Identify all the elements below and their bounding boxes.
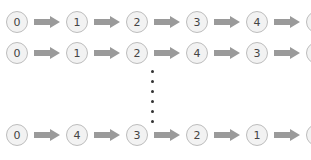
dot	[151, 80, 154, 83]
arrow-right-icon	[274, 129, 300, 141]
node-label: 2	[134, 16, 141, 29]
dot	[151, 70, 154, 73]
node-label: 0	[14, 16, 21, 29]
vertical-ellipsis	[151, 70, 155, 130]
node: 4	[246, 11, 268, 33]
node-label: 1	[74, 47, 81, 60]
node: 2	[126, 42, 148, 64]
node: 1	[66, 11, 88, 33]
node: 0	[306, 124, 311, 146]
node: 0	[306, 11, 311, 33]
arrow-right-icon	[94, 129, 120, 141]
node-label: 4	[194, 47, 201, 60]
dot	[151, 110, 154, 113]
arrow-right-icon	[154, 129, 180, 141]
node: 2	[126, 11, 148, 33]
node-label: 3	[194, 16, 201, 29]
arrow-right-icon	[34, 129, 60, 141]
node: 0	[306, 42, 311, 64]
arrow-right-icon	[34, 47, 60, 59]
node: 0	[6, 11, 28, 33]
sequence-row-3: 0 4 3 2 1 0	[6, 123, 311, 147]
node-label: 4	[74, 129, 81, 142]
node: 4	[66, 124, 88, 146]
node-label: 0	[14, 47, 21, 60]
sequence-row-1: 0 1 2 3 4 0	[6, 10, 311, 34]
arrow-right-icon	[34, 16, 60, 28]
node-label: 3	[134, 129, 141, 142]
node-label: 1	[254, 129, 261, 142]
node-label: 2	[134, 47, 141, 60]
dot	[151, 100, 154, 103]
arrow-right-icon	[94, 16, 120, 28]
arrow-right-icon	[274, 16, 300, 28]
arrow-right-icon	[214, 47, 240, 59]
node-label: 3	[254, 47, 261, 60]
arrow-right-icon	[94, 47, 120, 59]
node-label: 2	[194, 129, 201, 142]
node-label: 0	[14, 129, 21, 142]
node: 3	[126, 124, 148, 146]
node: 4	[186, 42, 208, 64]
node-label: 4	[254, 16, 261, 29]
node: 3	[246, 42, 268, 64]
node: 0	[6, 124, 28, 146]
node: 2	[186, 124, 208, 146]
node-label: 1	[74, 16, 81, 29]
sequence-row-2: 0 1 2 4 3 0	[6, 41, 311, 65]
dot	[151, 90, 154, 93]
arrow-right-icon	[214, 129, 240, 141]
node: 1	[66, 42, 88, 64]
node: 3	[186, 11, 208, 33]
arrow-right-icon	[274, 47, 300, 59]
node: 0	[6, 42, 28, 64]
arrow-right-icon	[154, 16, 180, 28]
node: 1	[246, 124, 268, 146]
arrow-right-icon	[154, 47, 180, 59]
arrow-right-icon	[214, 16, 240, 28]
